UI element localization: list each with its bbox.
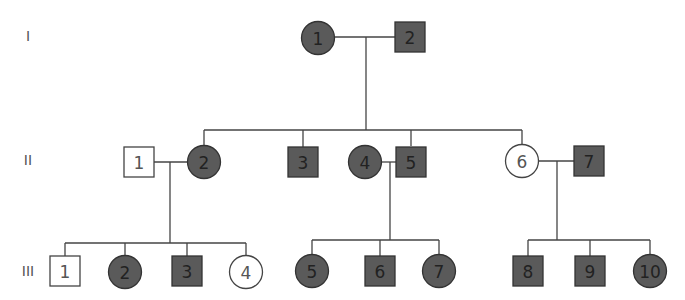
individual-III-1: 1	[50, 256, 80, 286]
individual-number: 9	[585, 262, 596, 282]
individual-number: 2	[120, 263, 131, 283]
individual-II-7: 7	[574, 146, 604, 176]
individual-III-2: 2	[109, 256, 142, 289]
individual-number: 5	[307, 262, 318, 282]
individual-number: 7	[434, 262, 445, 282]
generation-label-II: II	[24, 152, 32, 168]
generation-label-III: III	[22, 263, 34, 279]
individual-II-4: 4	[349, 146, 382, 179]
individual-number: 4	[241, 263, 252, 283]
individual-number: 6	[517, 152, 528, 172]
individual-II-2: 2	[188, 146, 221, 179]
individual-III-6: 6	[365, 256, 395, 286]
individual-III-4: 4	[230, 256, 263, 289]
individual-III-10: 10	[634, 255, 667, 288]
individual-I-1: 1	[302, 22, 335, 55]
individual-III-7: 7	[423, 255, 456, 288]
individuals: 12123456712345678910	[50, 22, 667, 289]
individual-III-9: 9	[575, 256, 605, 286]
individual-number: 2	[199, 153, 210, 173]
individual-II-3: 3	[288, 147, 318, 177]
individual-number: 3	[182, 262, 193, 282]
individual-number: 3	[298, 153, 309, 173]
individual-II-1: 1	[124, 147, 154, 177]
individual-number: 8	[523, 262, 534, 282]
individual-number: 1	[313, 29, 324, 49]
individual-III-8: 8	[513, 256, 543, 286]
individual-III-3: 3	[172, 256, 202, 286]
individual-number: 4	[360, 153, 371, 173]
pedigree-chart: IIIIII 12123456712345678910	[0, 0, 685, 300]
individual-number: 10	[639, 262, 661, 282]
individual-II-6: 6	[506, 145, 539, 178]
individual-number: 5	[406, 153, 417, 173]
individual-number: 6	[375, 262, 386, 282]
generation-label-I: I	[26, 28, 30, 44]
individual-number: 7	[584, 152, 595, 172]
individual-number: 1	[134, 153, 145, 173]
generation-labels: IIIIII	[22, 28, 34, 279]
individual-number: 2	[405, 28, 416, 48]
individual-III-5: 5	[296, 255, 329, 288]
individual-II-5: 5	[396, 147, 426, 177]
individual-I-2: 2	[395, 22, 425, 52]
individual-number: 1	[60, 262, 71, 282]
